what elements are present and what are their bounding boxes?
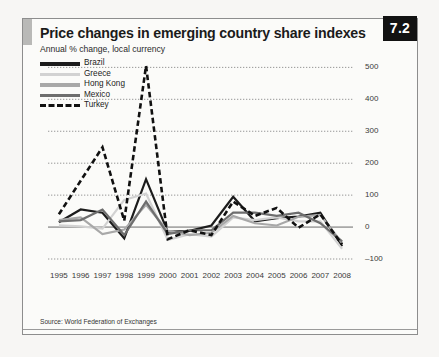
figure-panel: 7.2 Price changes in emerging country sh… (22, 18, 418, 335)
source-divider (23, 329, 417, 330)
y-axis-tick-label: 0 (365, 222, 369, 231)
y-axis-tick-label: –100 (365, 254, 383, 263)
y-axis-tick-label: 200 (365, 158, 378, 167)
page-title: Price changes in emerging country share … (40, 25, 366, 41)
chart-plot-area: –100010020030040050019951996199719981999… (40, 41, 395, 293)
y-axis-tick-label: 300 (365, 126, 378, 135)
source-note: Source: World Federation of Exchanges (40, 318, 157, 325)
series-line-greece (59, 194, 342, 249)
corner-accent-bar (23, 19, 32, 45)
figure-number-badge: 7.2 (383, 16, 417, 41)
y-axis-tick-label: 400 (365, 94, 378, 103)
y-axis-tick-label: 500 (365, 62, 378, 71)
x-axis-tick-label: 2008 (325, 271, 359, 280)
line-chart-svg (40, 41, 395, 293)
y-axis-tick-label: 100 (365, 190, 378, 199)
page-background: 7.2 Price changes in emerging country sh… (0, 0, 439, 357)
